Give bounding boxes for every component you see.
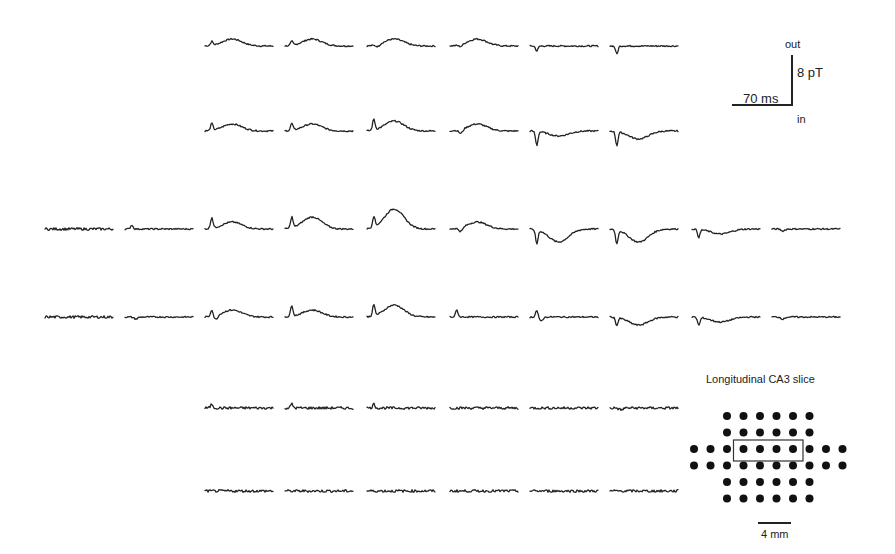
sensor-dot <box>773 429 781 437</box>
sensor-dot <box>723 429 731 437</box>
inset-scale-label: 4 mm <box>761 528 789 540</box>
sensor-dot <box>773 478 781 486</box>
sensor-dot <box>773 495 781 503</box>
sensor-dot <box>773 462 781 470</box>
sensor-trace <box>772 228 840 231</box>
sensor-trace <box>530 311 598 321</box>
scale-bar-time-label: 70 ms <box>743 91 778 106</box>
sensor-dot <box>723 445 731 453</box>
sensor-trace <box>125 316 193 319</box>
sensor-trace <box>45 316 113 319</box>
sensor-trace <box>530 228 598 244</box>
sensor-dot <box>789 445 797 453</box>
sensor-dot <box>707 445 715 453</box>
sensor-trace <box>692 316 760 325</box>
sensor-trace <box>692 229 760 238</box>
sensor-trace <box>285 123 353 131</box>
sensor-dot <box>690 445 698 453</box>
sensor-trace <box>530 130 598 145</box>
sensor-dot <box>723 478 731 486</box>
inset-title: Longitudinal CA3 slice <box>706 373 815 385</box>
sensor-dot <box>740 445 748 453</box>
sensor-dot <box>839 445 847 453</box>
sensor-dot <box>789 429 797 437</box>
sensor-trace <box>285 306 353 318</box>
scale-bar-in-label: in <box>797 113 806 125</box>
sensor-dot <box>756 412 764 420</box>
sensor-dot <box>740 412 748 420</box>
scale-bar-amplitude-label: 8 pT <box>797 65 823 80</box>
sensor-dot <box>806 429 814 437</box>
sensor-dot <box>756 462 764 470</box>
sensor-trace <box>610 407 678 411</box>
sensor-dot <box>723 412 731 420</box>
sensor-trace <box>285 38 353 46</box>
sensor-dot <box>789 478 797 486</box>
sensor-trace <box>530 407 598 409</box>
sensor-trace <box>45 228 113 231</box>
sensor-dot <box>723 462 731 470</box>
figure: out 8 pT 70 ms in Longitudinal CA3 slice… <box>0 0 895 554</box>
sensor-trace <box>205 218 273 230</box>
sensor-trace <box>125 226 193 230</box>
sensor-dot <box>707 462 715 470</box>
sensor-dot <box>773 412 781 420</box>
sensor-trace <box>205 38 273 46</box>
scale-bar-out-label: out <box>785 38 800 50</box>
sensor-trace <box>450 124 518 134</box>
sensor-trace <box>450 490 518 493</box>
sensor-trace <box>610 490 678 493</box>
sensor-dot <box>806 478 814 486</box>
sensor-trace <box>367 305 435 318</box>
sensor-trace <box>367 119 435 132</box>
sensor-trace <box>367 403 435 409</box>
sensor-dot <box>806 495 814 503</box>
sensor-trace <box>450 222 518 232</box>
sensor-trace <box>610 130 678 146</box>
sensor-trace <box>530 45 598 51</box>
sensor-dot <box>756 429 764 437</box>
sensor-dot <box>740 495 748 503</box>
sensor-dot <box>822 445 830 453</box>
sensor-trace <box>285 403 353 409</box>
sensor-dot <box>740 462 748 470</box>
sensor-trace <box>367 209 435 230</box>
sensor-trace <box>205 490 273 493</box>
sensor-trace <box>772 316 840 319</box>
sensor-dot <box>806 412 814 420</box>
sensor-dot <box>756 478 764 486</box>
sensor-trace <box>610 45 678 53</box>
sensor-dot <box>756 445 764 453</box>
sensor-trace <box>450 407 518 410</box>
sensor-dot <box>789 495 797 503</box>
sensor-dot <box>789 462 797 470</box>
sensor-trace <box>285 490 353 493</box>
sensor-trace <box>285 216 353 229</box>
sensor-trace <box>205 310 273 320</box>
sensor-dot <box>740 429 748 437</box>
sensor-dot <box>806 445 814 453</box>
sensor-dot <box>723 495 731 503</box>
sensor-dot <box>690 462 698 470</box>
sensor-trace <box>610 228 678 243</box>
sensor-dot <box>822 462 830 470</box>
sensor-trace <box>367 490 435 493</box>
sensor-trace <box>367 39 435 48</box>
sensor-trace <box>450 310 518 318</box>
sensor-dot <box>789 412 797 420</box>
sensor-dot <box>806 462 814 470</box>
sensor-trace <box>610 316 678 325</box>
sensor-dot <box>773 445 781 453</box>
sensor-trace <box>530 490 598 493</box>
sensor-trace <box>205 404 273 409</box>
sensor-trace <box>205 123 273 132</box>
sensor-dot <box>756 495 764 503</box>
sensor-trace <box>450 38 518 46</box>
sensor-dot <box>740 478 748 486</box>
sensor-dot <box>839 462 847 470</box>
